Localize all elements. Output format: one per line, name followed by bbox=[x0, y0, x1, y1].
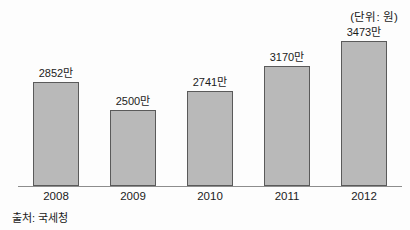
bar-value-label: 3170만 bbox=[249, 48, 325, 64]
x-axis-label-2011: 2011 bbox=[249, 190, 325, 202]
bar-2009 bbox=[110, 110, 156, 186]
x-axis-label-2008: 2008 bbox=[18, 190, 94, 202]
source-note: 출처: 국세청 bbox=[12, 209, 68, 225]
x-axis-label-2009: 2009 bbox=[95, 190, 171, 202]
bar-group-2009: 2500만 bbox=[95, 20, 171, 186]
bar-chart-figure: (단위: 원) 2852만 2500만 2741만 3170만 3473만 bbox=[0, 0, 410, 230]
x-axis-label-2010: 2010 bbox=[172, 190, 248, 202]
x-axis-label-2012: 2012 bbox=[326, 190, 402, 202]
bar-value-label: 2500만 bbox=[95, 92, 171, 108]
bar-value-label: 3473만 bbox=[326, 23, 402, 39]
bar-group-2011: 3170만 bbox=[249, 20, 325, 186]
bar-value-label: 2741만 bbox=[172, 73, 248, 89]
bar-2008 bbox=[33, 82, 79, 186]
x-axis-baseline bbox=[18, 186, 402, 187]
bar-2011 bbox=[264, 66, 310, 186]
x-axis-labels: 2008 2009 2010 2011 2012 bbox=[18, 190, 402, 208]
bar-group-2008: 2852만 bbox=[18, 20, 94, 186]
plot-area: 2852만 2500만 2741만 3170만 3473만 2008 bbox=[0, 0, 410, 230]
bar-2010 bbox=[187, 91, 233, 186]
bar-group-2012: 3473만 bbox=[326, 20, 402, 186]
bar-series: 2852만 2500만 2741만 3170만 3473만 bbox=[18, 20, 402, 186]
bar-value-label: 2852만 bbox=[18, 64, 94, 80]
bar-group-2010: 2741만 bbox=[172, 20, 248, 186]
bar-2012 bbox=[341, 41, 387, 186]
